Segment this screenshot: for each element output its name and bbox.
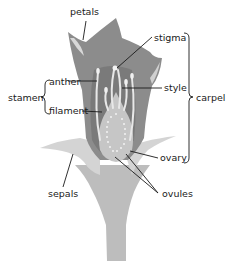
label-sepals: sepals <box>48 188 78 199</box>
label-style: style <box>164 82 187 93</box>
label-ovules: ovules <box>162 188 193 199</box>
label-petals: petals <box>70 6 99 17</box>
label-stigma: stigma <box>154 32 186 43</box>
stigma-tip <box>113 66 118 71</box>
flower-diagram: petals stigma anther style stamen carpel… <box>0 0 232 261</box>
stem <box>75 165 150 261</box>
flower-illustration <box>0 0 232 261</box>
label-ovary: ovary <box>160 152 187 163</box>
label-stamen: stamen <box>8 92 44 103</box>
carpel-brace <box>184 33 193 163</box>
label-anther: anther <box>49 76 80 87</box>
label-carpel: carpel <box>196 92 225 103</box>
label-filament: filament <box>49 105 88 116</box>
